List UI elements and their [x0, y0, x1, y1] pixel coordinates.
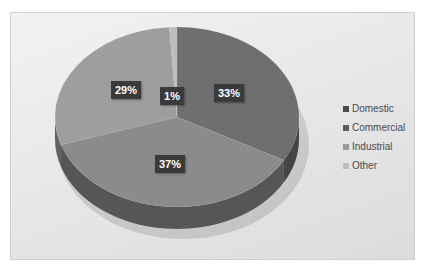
legend-label: Other	[352, 160, 377, 171]
legend-swatch-icon	[343, 125, 349, 131]
legend-label: Industrial	[352, 141, 393, 152]
legend-label: Commercial	[352, 122, 405, 133]
legend: Domestic Commercial Industrial Other	[343, 101, 405, 177]
label-commercial: 37%	[155, 155, 185, 173]
legend-item-industrial: Industrial	[343, 139, 405, 154]
legend-item-commercial: Commercial	[343, 120, 405, 135]
label-domestic: 33%	[214, 84, 244, 102]
legend-label: Domestic	[352, 103, 394, 114]
legend-swatch-icon	[343, 106, 349, 112]
label-other: 1%	[160, 87, 184, 105]
legend-swatch-icon	[343, 144, 349, 150]
label-industrial: 29%	[111, 81, 141, 99]
legend-item-domestic: Domestic	[343, 101, 405, 116]
legend-swatch-icon	[343, 163, 349, 169]
legend-item-other: Other	[343, 158, 405, 173]
